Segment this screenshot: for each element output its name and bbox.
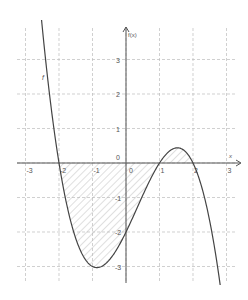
y-tick-label: -1 [115,195,121,202]
x-tick-label: 3 [228,167,232,174]
y-tick-label: -2 [115,229,121,236]
x-axis-label: x [228,153,233,159]
function-label: f [42,74,45,81]
y-axis-label: f(x) [128,32,137,38]
y-tick-label: 3 [116,57,120,64]
x-tick-label: -3 [27,167,33,174]
origin-label-x: 0 [129,167,133,174]
function-curve [41,10,221,290]
origin-label-y: 0 [116,154,120,161]
function-plot: -3-2-1123-3-2-112300 f f(x) x [0,0,248,300]
x-tick-label: -1 [94,167,100,174]
y-tick-label: 1 [116,126,120,133]
x-tick-label: 1 [161,167,165,174]
y-tick-label: -3 [115,264,121,271]
y-tick-label: 2 [116,91,120,98]
axes [17,27,241,283]
